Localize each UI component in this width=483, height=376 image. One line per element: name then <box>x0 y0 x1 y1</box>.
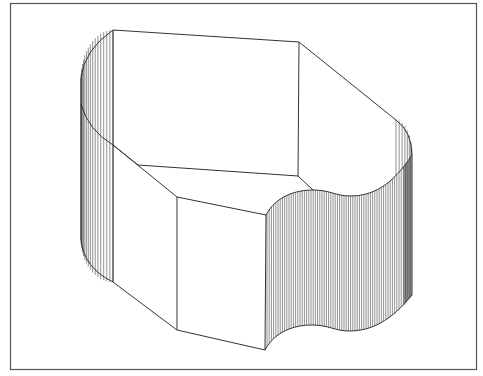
top-right-diagonal-edge <box>299 42 396 120</box>
top-left-arc <box>81 30 113 78</box>
back-to-wave-edge <box>298 176 313 190</box>
solid-wireframe-drawing <box>0 0 483 376</box>
recess-back-edge <box>138 165 298 176</box>
wavy-surface-hatching <box>267 158 410 347</box>
front-top-edge <box>177 197 266 215</box>
diagram-canvas <box>0 0 483 376</box>
bottom-front-edge <box>177 330 265 350</box>
recess-back-diagonal <box>113 145 138 165</box>
edges <box>81 30 412 350</box>
notch-vertical-edge <box>265 215 266 350</box>
left-mid-arc <box>81 104 113 145</box>
top-back-edge <box>113 30 299 42</box>
right-curved-surface-hatching <box>396 120 412 304</box>
left-curved-surface-hatching <box>81 30 113 282</box>
top-right-arc <box>396 120 412 155</box>
bottom-left-diagonal <box>113 282 177 330</box>
back-vertical-edge <box>298 42 299 176</box>
bottom-left-arc <box>81 240 113 282</box>
